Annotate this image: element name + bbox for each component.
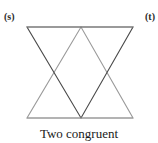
figure-label-t: (t): [145, 12, 155, 22]
figure-container: (s) (t) Two congruent: [0, 0, 158, 143]
figure-caption: Two congruent: [0, 127, 158, 141]
triangle-s-down-pointing: [27, 27, 133, 118]
triangle-t-up-pointing: [27, 27, 133, 118]
figure-label-s: (s): [4, 12, 15, 22]
two-congruent-triangles-diagram: [0, 0, 158, 143]
